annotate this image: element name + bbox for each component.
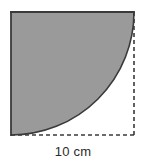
geometry-figure-canvas <box>0 0 146 165</box>
shaded-quarter-circle-region <box>11 12 134 135</box>
dimension-label-side-length: 10 cm <box>0 144 146 160</box>
geometry-figure: 10 cm <box>0 0 146 165</box>
